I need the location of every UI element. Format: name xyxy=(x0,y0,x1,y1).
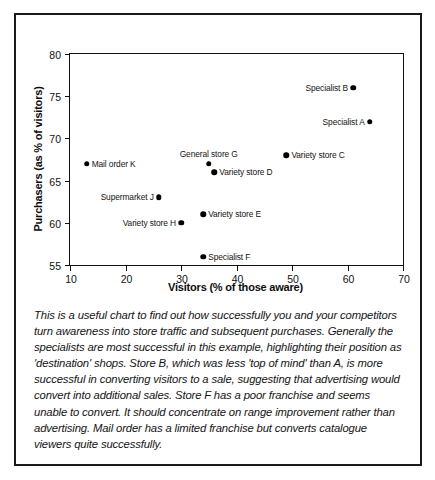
scatter-chart: Purchasers (as % of visitors) 5560657075… xyxy=(16,15,420,302)
x-tick: 50 xyxy=(292,265,293,271)
data-point-label: Specialist A xyxy=(323,117,365,125)
y-tick-label: 55 xyxy=(49,260,61,272)
data-point[interactable] xyxy=(206,161,212,167)
data-point-label: General store G xyxy=(180,149,238,157)
x-tick: 10 xyxy=(70,265,71,271)
data-point-label: Specialist B xyxy=(305,84,348,92)
data-point[interactable] xyxy=(284,153,290,159)
data-point[interactable] xyxy=(200,254,206,260)
y-tick-label: 70 xyxy=(49,133,61,145)
y-tick-label: 65 xyxy=(49,176,61,188)
y-axis-title: Purchasers (as % of visitors) xyxy=(30,53,46,264)
y-tick: 80 xyxy=(65,54,70,55)
data-point[interactable] xyxy=(367,119,373,125)
data-point-label: Supermarket J xyxy=(101,193,154,201)
x-axis-title: Visitors (% of those aware) xyxy=(69,281,402,293)
data-point-label: Specialist F xyxy=(208,252,250,260)
x-tick: 70 xyxy=(403,265,404,271)
x-tick: 40 xyxy=(237,265,238,271)
x-tick: 20 xyxy=(126,265,127,271)
data-point-label: Variety store C xyxy=(291,151,344,159)
plot-area: 556065707580 10203040506070 Specialist B… xyxy=(69,53,404,266)
figure-caption: This is a useful chart to find out how s… xyxy=(34,307,402,452)
y-tick: 65 xyxy=(65,181,70,182)
y-tick: 70 xyxy=(65,138,70,139)
y-tick-label: 60 xyxy=(49,218,61,230)
data-point[interactable] xyxy=(212,169,218,175)
y-tick-label: 80 xyxy=(49,49,61,61)
data-point[interactable] xyxy=(350,85,356,91)
x-tick: 30 xyxy=(181,265,182,271)
y-axis-title-text: Purchasers (as % of visitors) xyxy=(32,86,44,231)
data-point[interactable] xyxy=(84,161,90,167)
data-point[interactable] xyxy=(200,212,206,218)
data-point-label: Variety store H xyxy=(123,219,176,227)
data-point[interactable] xyxy=(178,220,184,226)
data-point[interactable] xyxy=(156,195,162,201)
caption-region: This is a useful chart to find out how s… xyxy=(16,307,420,464)
data-point-label: Variety store D xyxy=(219,168,272,176)
data-point-label: Mail order K xyxy=(92,160,136,168)
y-tick: 60 xyxy=(65,223,70,224)
y-tick: 75 xyxy=(65,96,70,97)
y-tick-label: 75 xyxy=(49,91,61,103)
data-point-label: Variety store E xyxy=(208,210,261,218)
x-tick: 60 xyxy=(348,265,349,271)
figure-card: Purchasers (as % of visitors) 5560657075… xyxy=(14,13,422,466)
